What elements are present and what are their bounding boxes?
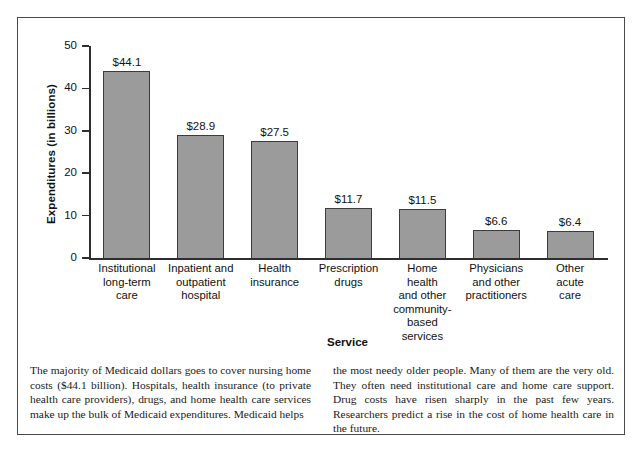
bar-slot: $11.5 (399, 46, 446, 258)
category-label-line: and other (385, 289, 459, 303)
bar[interactable] (399, 209, 446, 258)
category-label-line: outpatient (164, 276, 238, 290)
x-axis-title: Service (89, 336, 606, 348)
category-label-line: Home (385, 262, 459, 276)
y-axis-tick (82, 130, 89, 132)
y-axis-tick (82, 88, 89, 90)
category-label-line: Other (533, 262, 607, 276)
bar-slot: $6.4 (547, 46, 594, 258)
y-axis-tick-label: 30 (47, 125, 77, 137)
bar-value-label: $27.5 (237, 126, 312, 138)
bar-value-label: $6.6 (459, 215, 534, 227)
bar[interactable] (103, 71, 150, 258)
bar-value-label: $11.5 (385, 194, 460, 206)
category-label-line: care (533, 289, 607, 303)
page-root: Expenditures (in billions) 01020304050 $… (0, 0, 642, 454)
x-axis-category-label: Inpatient andoutpatienthospital (164, 262, 238, 303)
bar-slot: $6.6 (473, 46, 520, 258)
category-label-line: Inpatient and (164, 262, 238, 276)
y-axis-tick-label: 0 (47, 252, 77, 264)
bar-value-label: $28.9 (163, 120, 238, 132)
category-label-line: community- (385, 303, 459, 317)
figure-frame: Expenditures (in billions) 01020304050 $… (17, 17, 625, 435)
bar-chart: Expenditures (in billions) 01020304050 $… (18, 18, 624, 348)
x-axis-category-label: Institutionallong-termcare (90, 262, 164, 303)
y-axis-tick-label: 40 (47, 82, 77, 94)
x-axis-category-label: Physiciansand otherpractitioners (459, 262, 533, 303)
plot-area: 01020304050 $44.1$28.9$27.5$11.7$11.5$6.… (89, 46, 606, 258)
category-label-line: based (385, 316, 459, 330)
bar-series: $44.1$28.9$27.5$11.7$11.5$6.6$6.4 (90, 46, 607, 258)
category-label-line: health (385, 276, 459, 290)
category-label-line: Physicians (459, 262, 533, 276)
category-label-line: and other (459, 276, 533, 290)
bar[interactable] (177, 135, 224, 258)
bar[interactable] (473, 230, 520, 258)
category-label-line: insurance (238, 276, 312, 290)
category-label-line: long-term (90, 276, 164, 290)
y-axis-tick (82, 172, 89, 174)
bar-value-label: $6.4 (533, 216, 608, 228)
caption-block: The majority of Medicaid dollars goes to… (30, 363, 614, 436)
x-axis-category-label: Healthinsurance (238, 262, 312, 289)
caption-column-left: The majority of Medicaid dollars goes to… (30, 363, 311, 436)
category-label-line: Health (238, 262, 312, 276)
x-axis-category-label: Homehealthand othercommunity-basedservic… (385, 262, 459, 344)
category-label-line: acute (533, 276, 607, 290)
y-axis-tick-label: 50 (47, 40, 77, 52)
bar-slot: $27.5 (251, 46, 298, 258)
category-label-line: Institutional (90, 262, 164, 276)
y-axis-tick (82, 45, 89, 47)
y-axis-tick (82, 257, 89, 259)
x-axis-category-label: Prescriptiondrugs (312, 262, 386, 289)
bar-value-label: $11.7 (311, 193, 386, 205)
bar-slot: $44.1 (103, 46, 150, 258)
bar-slot: $11.7 (325, 46, 372, 258)
bar[interactable] (547, 231, 594, 258)
bar[interactable] (251, 141, 298, 258)
category-label-line: hospital (164, 289, 238, 303)
y-axis-tick-label: 10 (47, 210, 77, 222)
x-axis-category-label: Otheracutecare (533, 262, 607, 303)
caption-column-right: the most needy older people. Many of the… (333, 363, 614, 436)
category-label-line: Prescription (312, 262, 386, 276)
bar-value-label: $44.1 (89, 56, 164, 68)
bar-slot: $28.9 (177, 46, 224, 258)
y-axis-tick-label: 20 (47, 167, 77, 179)
x-axis-line (89, 258, 608, 260)
category-label-line: practitioners (459, 289, 533, 303)
category-label-line: care (90, 289, 164, 303)
bar[interactable] (325, 208, 372, 258)
category-label-line: drugs (312, 276, 386, 290)
y-axis-tick (82, 215, 89, 217)
